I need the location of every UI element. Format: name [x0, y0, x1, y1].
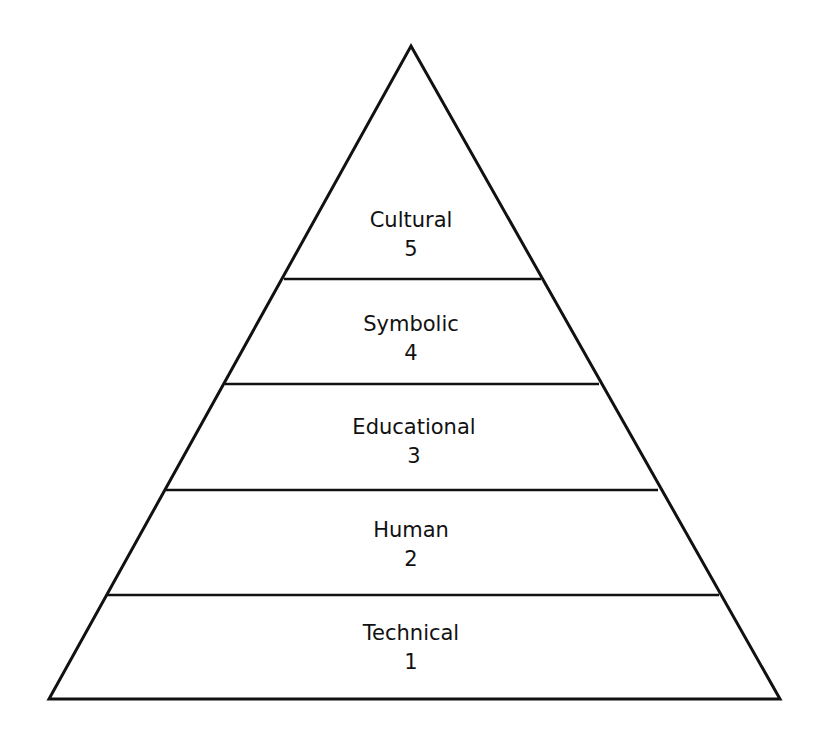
level-5: Cultural 5	[291, 206, 531, 264]
level-2-name: Human	[291, 516, 531, 545]
level-1-number: 1	[291, 648, 531, 677]
level-2-number: 2	[291, 545, 531, 574]
level-5-name: Cultural	[291, 206, 531, 235]
level-1: Technical 1	[291, 619, 531, 677]
level-3: Educational 3	[294, 413, 534, 471]
level-3-name: Educational	[294, 413, 534, 442]
level-4: Symbolic 4	[291, 310, 531, 368]
level-4-name: Symbolic	[291, 310, 531, 339]
pyramid-outline	[49, 46, 780, 699]
level-2: Human 2	[291, 516, 531, 574]
level-1-name: Technical	[291, 619, 531, 648]
level-4-number: 4	[291, 339, 531, 368]
level-3-number: 3	[294, 442, 534, 471]
level-5-number: 5	[291, 235, 531, 264]
